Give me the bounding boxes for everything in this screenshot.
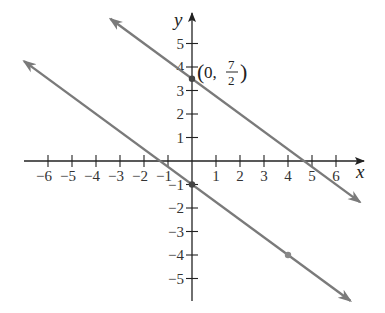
coordinate-plane: −6−5−4−3−2−1123456−5−4−3−2−112345 x y ( …: [0, 0, 385, 313]
y-tick-label: 1: [177, 130, 185, 146]
x-axis-label: x: [355, 161, 365, 182]
x-tick-label: 1: [212, 168, 220, 184]
x-tick-label: −3: [108, 168, 124, 184]
y-tick-label: −1: [168, 177, 184, 193]
x-tick-label: −2: [132, 168, 148, 184]
x-tick-label: −5: [60, 168, 76, 184]
x-tick-label: 2: [236, 168, 244, 184]
y-tick-label: 2: [177, 106, 185, 122]
data-point: [285, 252, 291, 258]
y-tick-label: −3: [168, 224, 184, 240]
x-tick-label: 5: [308, 168, 316, 184]
x-tick-label: −6: [36, 168, 52, 184]
point-annotation: ( 0, 7 2 ): [197, 57, 247, 88]
data-point: [189, 76, 195, 82]
annotation-prefix: 0,: [204, 63, 217, 82]
data-point: [189, 181, 195, 187]
axes: [24, 13, 364, 301]
x-tick-label: −4: [84, 168, 100, 184]
y-tick-label: −2: [168, 200, 184, 216]
x-tick-label: 3: [260, 168, 268, 184]
annotation-close-paren: ): [240, 59, 247, 84]
y-tick-label: −4: [168, 247, 184, 263]
annotation-fraction-denominator: 2: [228, 73, 235, 88]
y-axis-label: y: [172, 9, 183, 30]
y-tick-label: 3: [177, 83, 185, 99]
x-tick-label: 4: [284, 168, 292, 184]
y-tick-label: −5: [168, 271, 184, 287]
annotation-fraction-numerator: 7: [228, 57, 235, 72]
y-tick-label: 5: [177, 36, 185, 52]
